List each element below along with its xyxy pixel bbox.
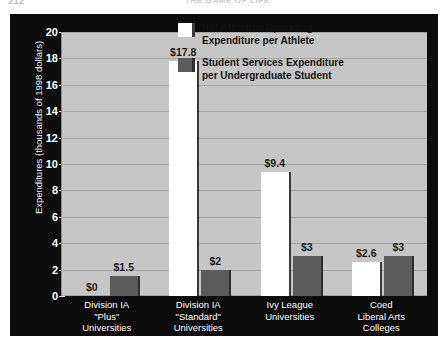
x-category-label-line: Universities [152, 322, 244, 334]
y-tick-label: 4 [32, 237, 58, 249]
y-tick-label: 16 [32, 79, 58, 91]
bar-value-label: $3 [392, 241, 404, 253]
x-category-label-line: Liberal Arts [335, 311, 427, 323]
bar-student-services [384, 256, 414, 296]
x-category-label-line: Colleges [335, 322, 427, 334]
page-running-head: THE GAME OF LIFE [185, 0, 270, 5]
x-category-label-line: Universities [61, 322, 153, 334]
x-category-label-line: "Plus" [61, 311, 153, 323]
legend-item: Student Services Expenditureper Undergra… [178, 57, 373, 83]
bar-net-athletics [352, 262, 382, 296]
y-tick-mark [59, 296, 65, 297]
bar-value-label: $9.4 [265, 157, 285, 169]
x-category-label-line: Division IA [61, 299, 153, 311]
gridline [62, 217, 427, 218]
x-category-label: Division IA"Standard"Universities [152, 299, 244, 334]
bar-net-athletics [169, 61, 199, 296]
bar-student-services [293, 256, 323, 296]
y-tick-label: 12 [32, 132, 58, 144]
x-category-label-line: Ivy League [244, 299, 336, 311]
bar-value-label: $1.5 [114, 261, 134, 273]
y-tick-label: 0 [32, 290, 58, 302]
x-category-label: CoedLiberal ArtsColleges [335, 299, 427, 334]
gridline [62, 190, 427, 191]
x-axis-category-labels: Division IA"Plus"UniversitiesDivision IA… [61, 299, 427, 335]
gridline [62, 164, 427, 165]
chart-figure: Expenditures (thousands of 1998 dollars)… [10, 14, 438, 336]
x-category-label: Division IA"Plus"Universities [61, 299, 153, 334]
bar-student-services [201, 270, 231, 296]
y-tick-label: 20 [32, 26, 58, 38]
x-category-label: Ivy LeagueUniversities [244, 299, 336, 322]
bar-value-label: $2.6 [356, 247, 376, 259]
y-axis-tick-labels: 02468101214161820 [28, 32, 58, 296]
bar-value-label: $0 [86, 281, 98, 293]
legend-swatch-icon [178, 58, 195, 72]
gridline [62, 111, 427, 112]
y-tick-label: 10 [32, 158, 58, 170]
page-folio: 212 [8, 0, 25, 6]
y-tick-label: 8 [32, 184, 58, 196]
legend-item: Net Athletics OperatingExpenditure per A… [178, 22, 373, 48]
bar-value-label: $3 [301, 241, 313, 253]
legend-label: Student Services Expenditureper Undergra… [202, 57, 373, 82]
bar-net-athletics [261, 172, 291, 296]
x-category-label-line: Coed [335, 299, 427, 311]
legend-label-line: Expenditure per Athlete [202, 35, 373, 48]
gridline [62, 138, 427, 139]
legend-label-line: per Undergraduate Student [202, 70, 373, 83]
chart-legend: Net Athletics OperatingExpenditure per A… [178, 22, 373, 92]
legend-swatch-icon [178, 23, 195, 37]
legend-label-line: Student Services Expenditure [202, 57, 373, 70]
y-tick-label: 2 [32, 264, 58, 276]
legend-label: Net Athletics OperatingExpenditure per A… [202, 22, 373, 47]
bar-value-label: $2 [209, 255, 221, 267]
bar-student-services [110, 276, 140, 296]
y-tick-label: 14 [32, 105, 58, 117]
x-category-label-line: Division IA [152, 299, 244, 311]
gridline [62, 243, 427, 244]
x-category-label-line: Universities [244, 311, 336, 323]
y-tick-label: 18 [32, 52, 58, 64]
legend-label-line: Net Athletics Operating [202, 22, 373, 35]
y-tick-label: 6 [32, 211, 58, 223]
page-header: 212 THE GAME OF LIFE [0, 0, 448, 11]
x-category-label-line: "Standard" [152, 311, 244, 323]
